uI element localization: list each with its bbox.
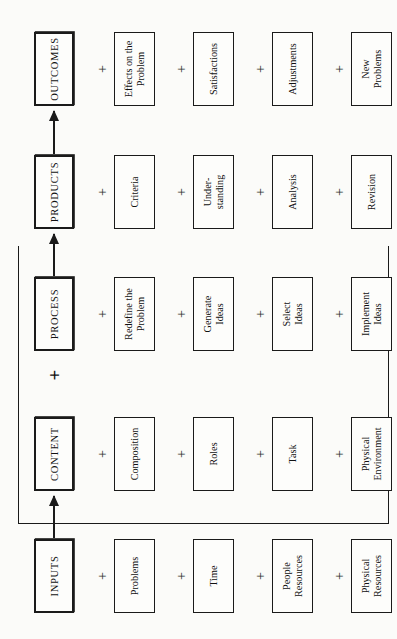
item-box-inputs-3[interactable]: PeopleResources <box>272 539 313 613</box>
plus-separator: + <box>96 62 110 76</box>
item-box-content-2[interactable]: Roles <box>193 417 234 491</box>
item-box-content-1[interactable]: Composition <box>114 417 155 491</box>
stage-column-process: PROCESS + Redefine theProblem + Generate… <box>0 277 397 351</box>
plus-separator: + <box>333 307 347 321</box>
stage-header-label: OUTCOMES <box>49 37 60 100</box>
plus-separator: + <box>254 569 268 583</box>
arrow-products-to-outcomes <box>53 111 55 154</box>
item-label: Time <box>208 565 220 586</box>
item-box-inputs-1[interactable]: Problems <box>114 539 155 613</box>
plus-content-process: + <box>45 366 64 384</box>
item-box-inputs-2[interactable]: Time <box>193 539 234 613</box>
plus-separator: + <box>333 62 347 76</box>
stage-header-label: INPUTS <box>49 556 60 597</box>
plus-separator: + <box>175 185 189 199</box>
plus-separator: + <box>175 62 189 76</box>
item-label: Analysis <box>287 174 299 210</box>
item-label: Composition <box>129 428 141 481</box>
plus-separator: + <box>175 447 189 461</box>
item-box-outcomes-2[interactable]: Satisfactions <box>193 32 234 106</box>
item-label: Roles <box>208 442 220 465</box>
item-label: Effects on theProblem <box>123 41 146 97</box>
item-box-products-1[interactable]: Criteria <box>114 155 155 229</box>
item-box-content-4[interactable]: PhysicalEnvironment <box>351 417 392 491</box>
stage-column-outcomes: OUTCOMES + Effects on theProblem + Satis… <box>0 32 397 106</box>
plus-separator: + <box>333 569 347 583</box>
stage-header-inputs[interactable]: INPUTS <box>34 539 74 613</box>
arrow-inputs-to-content <box>53 496 55 538</box>
arrow-process-to-products <box>53 234 55 276</box>
item-label: Revision <box>366 174 378 210</box>
plus-separator: + <box>96 447 110 461</box>
item-box-process-3[interactable]: SelectIdeas <box>272 277 313 351</box>
plus-separator: + <box>96 569 110 583</box>
stage-header-products[interactable]: PRODUCTS <box>34 155 74 229</box>
stage-column-products: PRODUCTS + Criteria + Under-standing + A… <box>0 155 397 229</box>
item-label: Problems <box>129 557 141 596</box>
plus-separator: + <box>333 185 347 199</box>
item-label: NewProblems <box>360 50 383 89</box>
item-label: Redefine theProblem <box>123 288 146 340</box>
item-label: ImplementIdeas <box>360 292 383 336</box>
item-label: Task <box>287 444 299 463</box>
item-box-outcomes-3[interactable]: Adjustments <box>272 32 313 106</box>
item-label: PhysicalEnvironment <box>360 427 383 480</box>
item-label: PhysicalResources <box>360 555 383 597</box>
plus-separator: + <box>333 447 347 461</box>
stage-header-label: PRODUCTS <box>49 162 60 222</box>
plus-separator: + <box>96 185 110 199</box>
item-label: Criteria <box>129 176 141 207</box>
plus-separator: + <box>96 307 110 321</box>
stage-header-label: PROCESS <box>49 289 60 339</box>
stage-column-inputs: INPUTS + Problems + Time + PeopleResourc… <box>0 539 397 613</box>
stage-column-content: CONTENT + Composition + Roles + Task + P… <box>0 417 397 491</box>
item-box-process-2[interactable]: GenerateIdeas <box>193 277 234 351</box>
item-box-process-4[interactable]: ImplementIdeas <box>351 277 392 351</box>
plus-separator: + <box>254 307 268 321</box>
item-label: Satisfactions <box>208 43 220 95</box>
stage-header-content[interactable]: CONTENT <box>34 417 74 491</box>
item-box-products-2[interactable]: Under-standing <box>193 155 234 229</box>
plus-separator: + <box>254 447 268 461</box>
item-box-products-3[interactable]: Analysis <box>272 155 313 229</box>
diagram-canvas: INPUTS + Problems + Time + PeopleResourc… <box>0 0 397 639</box>
item-label: PeopleResources <box>281 555 304 597</box>
item-box-products-4[interactable]: Revision <box>351 155 392 229</box>
plus-separator: + <box>175 569 189 583</box>
plus-separator: + <box>175 307 189 321</box>
plus-separator: + <box>254 185 268 199</box>
item-box-outcomes-4[interactable]: NewProblems <box>351 32 392 106</box>
stage-header-label: CONTENT <box>49 427 60 481</box>
item-label: Adjustments <box>287 43 299 95</box>
item-box-inputs-4[interactable]: PhysicalResources <box>351 539 392 613</box>
item-box-process-1[interactable]: Redefine theProblem <box>114 277 155 351</box>
item-label: Under-standing <box>202 175 225 210</box>
plus-separator: + <box>254 62 268 76</box>
stage-header-outcomes[interactable]: OUTCOMES <box>34 32 74 106</box>
item-box-outcomes-1[interactable]: Effects on theProblem <box>114 32 155 106</box>
stage-header-process[interactable]: PROCESS <box>34 277 74 351</box>
item-label: SelectIdeas <box>281 302 304 327</box>
item-label: GenerateIdeas <box>202 296 225 333</box>
item-box-content-3[interactable]: Task <box>272 417 313 491</box>
